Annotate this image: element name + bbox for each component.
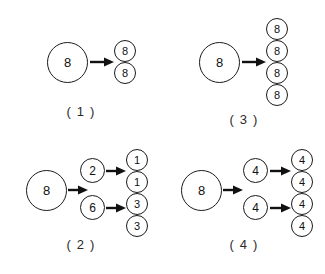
node-value: 8	[216, 56, 223, 69]
arrow-right-icon	[270, 203, 291, 213]
output-node: 8	[266, 84, 288, 106]
branch-node: 2	[80, 158, 105, 183]
node-value: 8	[64, 56, 71, 69]
node-value: 4	[299, 199, 305, 210]
arrow-right-icon	[106, 203, 126, 213]
output-node: 4	[291, 193, 313, 215]
output-node: 8	[266, 62, 288, 84]
branch-node: 4	[243, 195, 268, 220]
output-node: 8	[114, 62, 136, 84]
source-node-panel-2: 8	[26, 170, 67, 211]
node-value: 2	[89, 165, 96, 177]
node-value: 4	[299, 177, 305, 188]
panel-3: 8 8 8 8 8 ( 3 )	[163, 0, 325, 137]
branch-node: 4	[243, 158, 268, 183]
output-node: 3	[126, 215, 148, 237]
panel-caption: ( 4 )	[163, 237, 325, 252]
panel-caption: ( 2 )	[0, 237, 162, 252]
node-value: 4	[299, 155, 305, 166]
output-node: 1	[126, 149, 148, 171]
node-value: 8	[198, 184, 205, 197]
node-value: 4	[299, 221, 305, 232]
node-value: 3	[134, 221, 140, 232]
node-value: 6	[89, 202, 96, 214]
arrow-right-icon	[223, 185, 243, 195]
output-node: 4	[291, 171, 313, 193]
node-value: 4	[252, 165, 259, 177]
node-value: 8	[274, 68, 280, 79]
output-node: 8	[266, 18, 288, 40]
panel-4: 8 4 4 4 4	[163, 137, 325, 274]
arrow-right-icon	[270, 166, 291, 176]
arrow-right-icon	[242, 57, 266, 67]
source-node-panel-4: 8	[181, 170, 222, 211]
panel-caption: ( 3 )	[163, 112, 325, 127]
output-node: 8	[266, 40, 288, 62]
branch-node: 6	[80, 195, 105, 220]
partition-diagram: 8 8 8 ( 1 ) 8 8	[0, 0, 325, 274]
node-value: 8	[274, 46, 280, 57]
node-value: 8	[122, 68, 128, 79]
output-node: 4	[291, 215, 313, 237]
source-node-panel-1: 8	[47, 42, 88, 83]
output-node: 1	[126, 171, 148, 193]
node-value: 8	[274, 24, 280, 35]
arrow-right-icon	[106, 166, 126, 176]
panel-caption: ( 1 )	[0, 104, 162, 119]
node-value: 8	[274, 90, 280, 101]
node-value: 8	[43, 184, 50, 197]
source-node-panel-3: 8	[199, 42, 240, 83]
output-node: 3	[126, 193, 148, 215]
node-value: 3	[134, 199, 140, 210]
arrow-right-icon	[68, 185, 88, 195]
node-value: 4	[252, 202, 259, 214]
output-node: 8	[114, 40, 136, 62]
panel-1: 8 8 8 ( 1 )	[0, 0, 162, 137]
node-value: 8	[122, 46, 128, 57]
output-node: 4	[291, 149, 313, 171]
panel-2: 8 2 1 1 6	[0, 137, 162, 274]
node-value: 1	[134, 155, 140, 166]
arrow-right-icon	[90, 57, 114, 67]
node-value: 1	[134, 177, 140, 188]
